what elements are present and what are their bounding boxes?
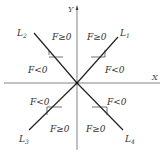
y-axis-label: Y [68, 5, 74, 14]
label-l2: L2 [16, 28, 27, 39]
diagram: Y X L1 L2 L3 L4 F≥0 F≥0 F<0 F<0 F<0 F<0 … [0, 0, 167, 154]
region-upper-right-inner: F≥0 [86, 32, 107, 42]
region-upper-left-inner: F≥0 [51, 32, 72, 42]
region-lower-left-inner: F≥0 [49, 124, 70, 134]
line-l1 [77, 37, 118, 83]
region-left-upper: F<0 [27, 65, 48, 75]
region-right-upper: F<0 [104, 65, 125, 75]
x-axis-label: X [151, 73, 158, 82]
label-l4: L4 [124, 134, 135, 145]
label-l1: L1 [119, 28, 130, 39]
region-left-lower: F<0 [29, 97, 50, 107]
region-lower-right-inner: F≥0 [85, 124, 106, 134]
region-right-lower: F<0 [106, 97, 127, 107]
label-l3: L3 [18, 134, 29, 145]
origin-point [76, 82, 79, 85]
y-axis-arrow-icon [76, 5, 79, 10]
